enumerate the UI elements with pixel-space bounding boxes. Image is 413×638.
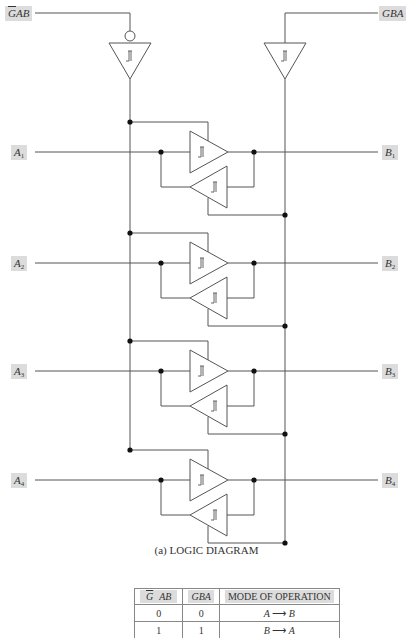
port-b3-label: B3 bbox=[382, 364, 398, 379]
forward-buffer-3 bbox=[190, 350, 228, 392]
gba-wire bbox=[285, 13, 378, 43]
table-row: 0 0 A ⟶ B bbox=[135, 605, 340, 622]
b-side-wire-3 bbox=[227, 371, 254, 406]
a-side-wire-4 bbox=[161, 480, 190, 515]
gba-label: GBA bbox=[379, 6, 406, 21]
junction-dot bbox=[282, 212, 287, 217]
junction-dot bbox=[127, 230, 132, 235]
port-b2-label: B2 bbox=[382, 256, 398, 271]
forward-buffer-4 bbox=[190, 459, 228, 501]
cell-mode: A ⟶ B bbox=[219, 605, 339, 622]
port-a3-label: A3 bbox=[11, 364, 27, 379]
junction-dot bbox=[127, 119, 132, 124]
b-side-wire-4 bbox=[227, 480, 254, 515]
forward-buffer-2 bbox=[190, 242, 228, 284]
junction-dot bbox=[158, 368, 163, 373]
junction-dot bbox=[127, 338, 132, 343]
inverter-bubble bbox=[125, 31, 135, 41]
port-a1-label: A1 bbox=[11, 145, 27, 160]
forward-buffer-1 bbox=[190, 131, 228, 173]
port-b4-label: B4 bbox=[382, 473, 398, 488]
junction-dot bbox=[127, 447, 132, 452]
junction-dot bbox=[282, 323, 287, 328]
junction-dot bbox=[251, 149, 256, 154]
junction-dot bbox=[282, 431, 287, 436]
gab-input-buffer bbox=[109, 43, 151, 79]
arrow-right-icon: ⟶ bbox=[272, 608, 286, 619]
b-side-wire-2 bbox=[227, 263, 254, 298]
function-table: GAB GBA MODE OF OPERATION 0 0 A ⟶ B 1 1 … bbox=[134, 588, 340, 638]
function-table-header: GAB GBA MODE OF OPERATION bbox=[135, 589, 340, 605]
cell-gab: 1 bbox=[135, 622, 183, 638]
junction-dot bbox=[158, 477, 163, 482]
junction-dot bbox=[158, 149, 163, 154]
port-b1-label: B1 bbox=[382, 145, 398, 160]
cell-gba: 0 bbox=[183, 605, 219, 622]
header-mode: MODE OF OPERATION bbox=[219, 589, 339, 605]
junction-dot bbox=[251, 260, 256, 265]
port-a4-label: A4 bbox=[11, 473, 27, 488]
a-side-wire-3 bbox=[161, 371, 190, 406]
junction-dot bbox=[251, 368, 256, 373]
header-gab: GAB bbox=[135, 589, 183, 605]
cell-mode: B ⟶ A bbox=[219, 622, 339, 638]
junction-dot bbox=[158, 260, 163, 265]
a-side-wire-2 bbox=[161, 263, 190, 298]
diagram-caption: (a) LOGIC DIAGRAM bbox=[0, 544, 413, 556]
cell-gba: 1 bbox=[183, 622, 219, 638]
gab-label: GAB bbox=[5, 6, 32, 21]
gba-input-buffer bbox=[264, 43, 306, 79]
port-a2-label: A2 bbox=[11, 256, 27, 271]
junction-dot bbox=[251, 477, 256, 482]
arrow-right-icon: ⟶ bbox=[272, 625, 286, 636]
gab-wire bbox=[35, 13, 130, 31]
header-gba: GBA bbox=[183, 589, 219, 605]
table-row: 1 1 B ⟶ A bbox=[135, 622, 340, 638]
cell-gab: 0 bbox=[135, 605, 183, 622]
b-side-wire-1 bbox=[227, 152, 254, 187]
a-side-wire-1 bbox=[161, 152, 190, 187]
